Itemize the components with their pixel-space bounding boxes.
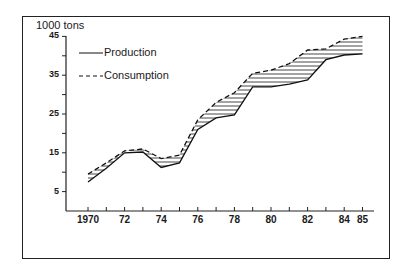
y-tick-label: 5	[39, 186, 59, 196]
x-tick-label: 82	[293, 214, 323, 225]
x-tick-label: 1970	[73, 214, 103, 225]
x-tick-label: 85	[348, 214, 378, 225]
y-tick-label: 15	[39, 147, 59, 157]
x-tick-label: 80	[256, 214, 286, 225]
y-tick-label: 25	[39, 108, 59, 118]
x-tick-label: 78	[219, 214, 249, 225]
legend-consumption-label: Consumption	[104, 69, 169, 81]
legend-production-label: Production	[104, 46, 157, 58]
x-tick-label: 76	[183, 214, 213, 225]
deficit-hatched-area	[88, 36, 363, 182]
x-tick-label: 72	[110, 214, 140, 225]
y-tick-label: 45	[39, 30, 59, 40]
line-chart	[0, 0, 411, 274]
y-tick-label: 35	[39, 69, 59, 79]
x-tick-label: 74	[146, 214, 176, 225]
